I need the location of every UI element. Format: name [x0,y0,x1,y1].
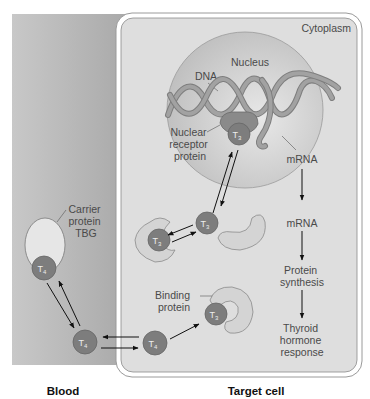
thyroid-response-label: Thyroid hormone response [280,322,324,358]
cytoplasm-label: Cytoplasm [301,22,351,34]
thyroid-hormone-diagram: Cytoplasm Nucleus DNA mRNA T3 Nuclear re… [0,0,370,399]
t4-blood-free: T4 [73,330,97,354]
nuclear-receptor-label: Nuclear receptor protein [169,126,210,162]
protein-synthesis-label: Protein synthesis [280,264,324,288]
binding-protein-label: Binding protein [155,289,193,313]
t4-bound-tbg: T4 [32,256,56,280]
mrna-cytoplasm-label: mRNA [287,217,318,229]
t3-cytoplasm: T3 [196,212,218,234]
t3-bound-left: T3 [148,229,170,251]
t4-cell: T4 [143,331,167,355]
t3-bound-lower: T3 [205,303,227,325]
blood-caption: Blood [47,385,80,397]
nucleus-label: Nucleus [231,56,269,68]
target-cell-caption: Target cell [228,385,285,397]
t3-nuclear: T3 [228,123,250,145]
mrna-nucleus-label: mRNA [287,153,318,165]
blood-region [12,14,132,365]
